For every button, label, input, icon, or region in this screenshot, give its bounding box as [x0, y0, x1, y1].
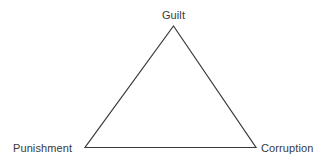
node-label-corruption: Corruption: [261, 142, 313, 155]
diagram-canvas: Guilt Punishment Corruption: [0, 0, 329, 164]
node-label-guilt: Guilt: [9, 9, 329, 22]
triangle-outline: [85, 26, 256, 148]
node-label-punishment: Punishment: [13, 142, 72, 155]
triangle-shape: [0, 0, 329, 164]
